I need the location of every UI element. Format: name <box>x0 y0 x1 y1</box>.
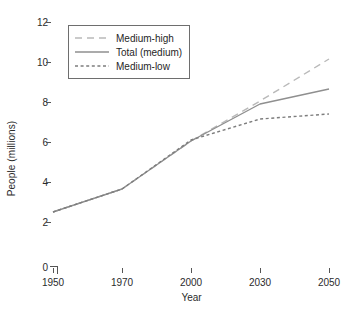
y-tick-12: 12 <box>22 18 48 28</box>
line-chart: 12 10 8 6 4 2 0 1950 1970 2000 2030 2050… <box>0 0 347 317</box>
x-tick-mark-2000 <box>191 268 192 273</box>
x-tick-mark-2050 <box>329 268 330 273</box>
y-tick-mark <box>46 222 51 223</box>
series-medium-low <box>53 114 329 212</box>
y-tick-2: 2 <box>22 218 48 228</box>
series-medium-high <box>53 59 329 212</box>
axis-break-vertical <box>57 266 58 274</box>
legend: Medium-high Total (medium) Medium-low <box>68 25 190 79</box>
y-tick-mark <box>46 102 51 103</box>
x-tick-mark-1970 <box>122 268 123 273</box>
x-axis-title: Year <box>53 292 330 303</box>
series-total-medium <box>53 89 329 212</box>
legend-label: Total (medium) <box>116 47 182 58</box>
y-tick-label: 0 <box>26 263 48 273</box>
x-tick-label-1970: 1970 <box>102 277 142 288</box>
x-tick-mark-2030 <box>260 268 261 273</box>
legend-line-sample-total-medium <box>75 46 109 58</box>
y-tick-label: 12 <box>26 18 48 28</box>
y-tick-mark <box>46 142 51 143</box>
y-tick-label: 2 <box>26 218 48 228</box>
y-tick-mark <box>46 22 51 23</box>
y-tick-8: 8 <box>22 98 48 108</box>
y-tick-label: 8 <box>26 98 48 108</box>
y-tick-0: 0 <box>22 263 48 273</box>
y-tick-label: 6 <box>26 138 48 148</box>
x-tick-label-2050: 2050 <box>309 277 347 288</box>
y-tick-mark <box>46 62 51 63</box>
legend-item-medium-low: Medium-low <box>75 59 182 73</box>
y-axis-title: People (millions) <box>0 0 22 317</box>
y-tick-mark <box>46 182 51 183</box>
y-tick-4: 4 <box>22 178 48 188</box>
x-tick-mark-1950 <box>53 268 54 273</box>
legend-item-total-medium: Total (medium) <box>75 45 182 59</box>
x-tick-label-1950: 1950 <box>33 277 73 288</box>
y-tick-6: 6 <box>22 138 48 148</box>
legend-label: Medium-high <box>116 33 174 44</box>
y-tick-10: 10 <box>22 58 48 68</box>
legend-line-sample-medium-high <box>75 32 109 44</box>
y-tick-label: 10 <box>26 58 48 68</box>
x-tick-label-2000: 2000 <box>171 277 211 288</box>
axis-break-marker <box>50 266 59 274</box>
x-tick-label-2030: 2030 <box>240 277 280 288</box>
legend-label: Medium-low <box>116 61 170 72</box>
y-tick-label: 4 <box>26 178 48 188</box>
legend-item-medium-high: Medium-high <box>75 31 182 45</box>
legend-line-sample-medium-low <box>75 60 109 72</box>
